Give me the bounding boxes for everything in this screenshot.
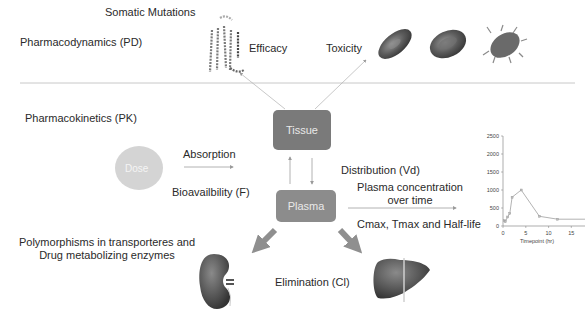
x-tick-label: 5 — [524, 230, 527, 236]
plasma-concentration-line1: Plasma concentration — [356, 181, 464, 194]
plasma-concentration-line2: over time — [356, 194, 464, 207]
red-blood-cell-icon — [373, 23, 416, 64]
pk-line-chart: 0 500 1000 1500 2000 2500 0 5 10 15 Time… — [487, 133, 585, 244]
chart-series-line — [503, 190, 585, 222]
x-tick-label: 0 — [501, 230, 504, 236]
y-tick-label: 1000 — [487, 187, 499, 193]
arrow-tissue-to-toxicity — [315, 60, 366, 109]
red-blood-cell-icon — [425, 24, 470, 64]
bioavailability-label: Bioavailbility (F) — [172, 186, 250, 199]
plasma-label: Plasma — [288, 200, 325, 212]
tissue-box: Tissue — [273, 110, 331, 150]
toxicity-label: Toxicity — [326, 42, 362, 55]
polymorphisms-line1: Polymorphisms in transporteres and — [14, 236, 200, 249]
distribution-label: Distribution (Vd) — [341, 164, 420, 177]
dose-label: Dose — [125, 162, 148, 175]
efficacy-label: Efficacy — [249, 42, 287, 55]
somatic-mutations-label: Somatic Mutations — [105, 6, 195, 19]
plasma-concentration-label: Plasma concentration over time — [356, 181, 464, 207]
damaged-red-blood-cell-icon — [483, 25, 527, 63]
y-tick-label: 2000 — [487, 151, 499, 157]
protein-structure-icon — [210, 16, 244, 72]
pharmacokinetics-title: Pharmacokinetics (PK) — [25, 112, 137, 125]
pharmacodynamics-title: Pharmacodynamics (PD) — [20, 36, 142, 49]
arrow-plasma-to-kidney — [258, 230, 275, 247]
plasma-box: Plasma — [276, 190, 336, 222]
arrow-plasma-to-liver — [340, 230, 356, 247]
x-axis-label: Timepoint (hr) — [520, 238, 554, 244]
kidney-icon — [199, 254, 234, 309]
cmax-tmax-label: Cmax, Tmax and Half-life — [357, 218, 481, 231]
y-tick-label: 1500 — [487, 169, 499, 175]
absorption-label: Absorption — [183, 148, 236, 161]
elimination-label: Elimination (Cl) — [275, 276, 350, 289]
polymorphisms-label: Polymorphisms in transporteres and Drug … — [14, 236, 200, 262]
arrow-tissue-to-efficacy — [240, 73, 285, 109]
liver-icon — [374, 258, 431, 302]
x-tick-label: 10 — [546, 230, 552, 236]
y-tick-label: 0 — [496, 223, 499, 229]
y-tick-label: 2500 — [487, 133, 499, 139]
polymorphisms-line2: Drug metabolizing enzymes — [14, 249, 200, 262]
x-tick-label: 15 — [568, 230, 574, 236]
y-tick-label: 500 — [490, 205, 499, 211]
tissue-label: Tissue — [286, 124, 318, 136]
